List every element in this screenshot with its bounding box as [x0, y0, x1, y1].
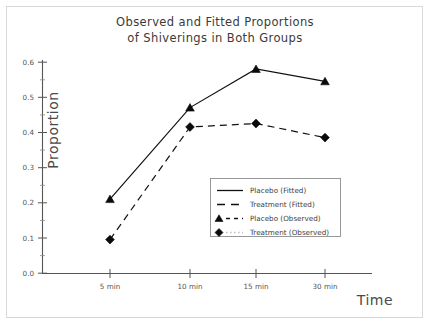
- y-tick-label-2: 0.2: [23, 198, 34, 207]
- x-tick-label-0: 5 min: [100, 282, 120, 291]
- chart-screenshot: Observed and Fitted Proportions of Shive…: [0, 0, 430, 325]
- y-axis-title: Proportion: [45, 91, 61, 168]
- legend-label-treatment-observed: Treatment (Observed): [249, 228, 329, 237]
- legend-label-treatment-fitted: Treatment (Fitted): [249, 200, 315, 209]
- legend-label-placebo-observed: Placebo (Observed): [250, 214, 321, 223]
- y-tick-label-6: 0.6: [23, 58, 35, 67]
- y-tick-label-0: 0.0: [23, 269, 35, 278]
- x-tick-label-3: 30 min: [313, 282, 338, 291]
- x-tick-label-1: 10 min: [178, 282, 203, 291]
- y-tick-label-3: 0.3: [23, 163, 34, 172]
- x-tick-label-2: 15 min: [244, 282, 269, 291]
- proportion-line-chart: Observed and Fitted Proportions of Shive…: [0, 0, 430, 325]
- y-tick-label-4: 0.4: [23, 128, 35, 137]
- chart-title-line-2: of Shiverings in Both Groups: [127, 31, 302, 45]
- chart-legend: Placebo (Fitted) Treatment (Fitted) Plac…: [211, 179, 341, 238]
- x-axis-title: Time: [356, 292, 393, 308]
- y-tick-label-5: 0.5: [23, 93, 34, 102]
- y-tick-label-1: 0.1: [23, 234, 34, 243]
- chart-title-line-1: Observed and Fitted Proportions: [116, 15, 314, 29]
- legend-label-placebo-fitted: Placebo (Fitted): [250, 186, 306, 195]
